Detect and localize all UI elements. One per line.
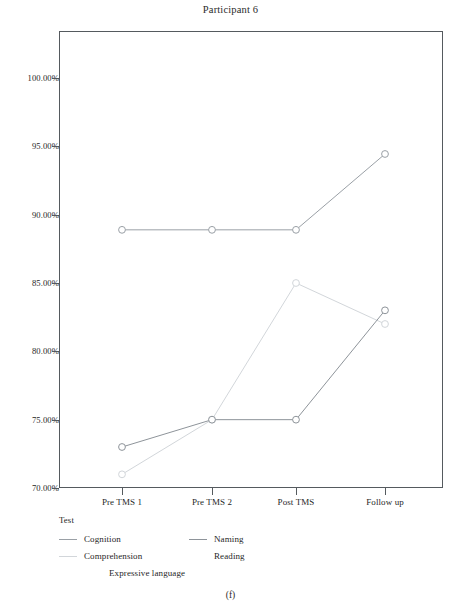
figure-caption: (f) — [0, 590, 461, 600]
data-point-marker — [209, 226, 216, 233]
data-point-marker — [119, 471, 126, 478]
y-axis-tick-mark — [52, 351, 59, 352]
legend-item-cognition[interactable]: Cognition — [59, 534, 121, 544]
series-naming — [119, 307, 389, 450]
series-line — [122, 154, 385, 230]
y-axis-tick-label: 70.00% — [3, 483, 59, 493]
data-point-marker — [382, 307, 389, 314]
legend-swatch-line-icon — [59, 539, 77, 540]
page-title: Participant 6 — [0, 4, 461, 15]
plot-series-layer — [59, 31, 443, 488]
data-point-marker — [382, 321, 389, 328]
legend-item-label: Reading — [214, 551, 245, 561]
legend-item-naming[interactable]: Naming — [189, 534, 244, 544]
data-point-marker — [382, 151, 389, 158]
y-axis-tick-label: 75.00% — [3, 415, 59, 425]
y-axis-tick-mark — [52, 283, 59, 284]
x-axis-tick-mark — [385, 488, 386, 495]
legend-item-label: Naming — [214, 534, 244, 544]
x-axis-tick-label: Pre TMS 1 — [72, 497, 172, 507]
y-axis-tick-mark — [52, 78, 59, 79]
series-comprehension — [119, 280, 389, 478]
data-point-marker — [119, 226, 126, 233]
y-axis-tick-mark — [52, 488, 59, 489]
y-axis-tick-label: 85.00% — [3, 278, 59, 288]
y-axis-tick-mark — [52, 146, 59, 147]
data-point-marker — [293, 280, 300, 287]
legend-item-label: Cognition — [84, 534, 121, 544]
data-point-marker — [119, 444, 126, 451]
data-point-marker — [209, 416, 216, 423]
legend-swatch-line-icon — [189, 556, 207, 557]
legend-swatch-line-icon — [84, 573, 102, 574]
y-axis-tick-label: 100.00% — [3, 73, 59, 83]
x-axis-tick-label: Post TMS — [246, 497, 346, 507]
y-axis-tick-mark — [52, 420, 59, 421]
y-axis-tick-label: 90.00% — [3, 210, 59, 220]
x-axis-tick-mark — [212, 488, 213, 495]
figure-panel: Participant 6 70.00%75.00%80.00%85.00%90… — [0, 0, 461, 615]
data-point-marker — [293, 416, 300, 423]
series-line — [122, 283, 385, 474]
series-line — [122, 310, 385, 447]
legend: Test CognitionComprehensionExpressive la… — [59, 515, 389, 586]
legend-item-label: Comprehension — [84, 551, 142, 561]
y-axis-tick-label: 95.00% — [3, 141, 59, 151]
series-cognition — [119, 151, 389, 234]
x-axis-tick-mark — [122, 488, 123, 495]
x-axis-tick-mark — [296, 488, 297, 495]
y-axis-tick-label: 80.00% — [3, 346, 59, 356]
legend-item-comprehension[interactable]: Comprehension — [59, 551, 142, 561]
data-point-marker — [293, 226, 300, 233]
legend-item-expressive-language[interactable]: Expressive language — [84, 568, 185, 578]
legend-swatch-line-icon — [59, 556, 77, 557]
legend-entries: CognitionComprehensionExpressive languag… — [59, 534, 389, 586]
x-axis-tick-label: Follow up — [335, 497, 435, 507]
legend-item-reading[interactable]: Reading — [189, 551, 245, 561]
legend-item-label: Expressive language — [109, 568, 185, 578]
legend-swatch-line-icon — [189, 539, 207, 540]
y-axis-tick-mark — [52, 215, 59, 216]
legend-title: Test — [59, 515, 389, 525]
